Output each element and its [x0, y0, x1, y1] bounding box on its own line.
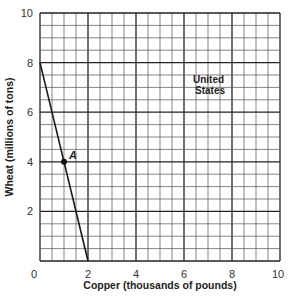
production-possibilities-chart: A United States 10 8 6 4 2 0 2 4 6 8 10 … [0, 0, 293, 299]
x-axis-label: Copper (thousands of pounds) [83, 279, 236, 291]
us-annotation-line1: United [193, 74, 224, 85]
x-tick-0: 0 [31, 268, 37, 280]
y-axis-label: Wheat (millions of tons) [3, 78, 15, 197]
y-tick-4: 4 [27, 156, 33, 168]
us-annotation-line2: States [195, 85, 225, 96]
y-tick-6: 6 [27, 106, 33, 118]
y-tick-10: 10 [21, 7, 33, 19]
grid [40, 13, 280, 261]
point-a-marker [61, 159, 67, 165]
y-tick-2: 2 [27, 205, 33, 217]
x-tick-10: 10 [272, 268, 284, 280]
y-tick-8: 8 [27, 57, 33, 69]
point-a-label: A [68, 149, 77, 161]
